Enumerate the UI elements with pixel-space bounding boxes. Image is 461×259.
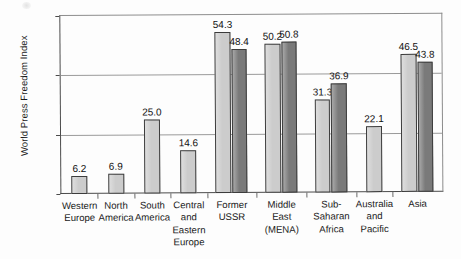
bar-dark <box>231 49 247 193</box>
y-axis-tick-mark <box>56 194 60 195</box>
y-axis-tick-labels: 0204060 <box>0 0 460 1</box>
bar-group: 6.2 <box>60 16 97 194</box>
y-axis-title: World Press Freedom Index <box>18 11 30 181</box>
bar-light <box>215 32 231 193</box>
x-axis-separator <box>207 193 208 198</box>
x-axis-separators <box>0 0 460 1</box>
bar-group: 54.348.4 <box>206 15 257 193</box>
bar-group: 25.0 <box>133 15 170 193</box>
bar-chart-figure: World Press Freedom Index 0204060 6.26.9… <box>0 0 461 259</box>
bar-value-label: 22.1 <box>358 113 390 124</box>
bar-dark <box>281 42 297 193</box>
x-axis-separator <box>98 194 99 199</box>
bar-group: 14.6 <box>169 15 206 193</box>
bar-light <box>108 173 124 194</box>
bars-layer: 6.26.925.014.654.348.450.250.831.336.922… <box>60 14 442 194</box>
bar-dark <box>331 83 347 193</box>
x-axis-label-line: Asia <box>387 198 449 211</box>
bar-value-label: 43.8 <box>409 49 441 60</box>
x-axis-label-line: Pacific <box>350 223 398 236</box>
bar-value-label: 6.9 <box>100 160 132 171</box>
x-axis-separator <box>356 192 357 197</box>
bar-light <box>366 127 382 193</box>
x-axis-category-labels: WesternEuropeNorthAmericaSouthAmericaCen… <box>0 0 460 1</box>
bar-value-label: 50.8 <box>273 29 305 40</box>
bar-light <box>401 54 417 192</box>
bar-group: 22.1 <box>355 14 392 192</box>
bar-group: 6.9 <box>97 16 134 194</box>
x-axis-label-line: Europe <box>165 236 213 249</box>
bar-value-label: 6.2 <box>63 162 95 173</box>
x-axis-separator <box>306 193 307 198</box>
x-axis-separator <box>393 192 394 197</box>
bar-value-label: 48.4 <box>223 36 255 47</box>
bar-light <box>71 175 87 193</box>
bar-group: 31.336.9 <box>305 14 356 192</box>
bar-group: 50.250.8 <box>256 15 307 193</box>
x-axis-separator <box>257 193 258 198</box>
bar-value-label: 54.3 <box>206 19 238 30</box>
bar-dark <box>417 62 433 192</box>
bar-light <box>144 119 160 193</box>
x-axis-separator <box>171 193 172 198</box>
x-axis-category-label: Asia <box>387 198 449 211</box>
bar-value-label: 14.6 <box>172 137 204 148</box>
bar-light <box>265 44 281 193</box>
bar-value-label: 25.0 <box>136 106 168 117</box>
bar-light <box>180 150 196 193</box>
bar-group: 46.543.8 <box>392 14 443 192</box>
x-axis-separator <box>134 194 135 199</box>
bar-value-label: 36.9 <box>323 70 355 81</box>
x-axis-label-line: Eastern <box>165 224 213 237</box>
x-axis-label-line: and <box>350 210 398 223</box>
bar-light <box>315 100 331 193</box>
